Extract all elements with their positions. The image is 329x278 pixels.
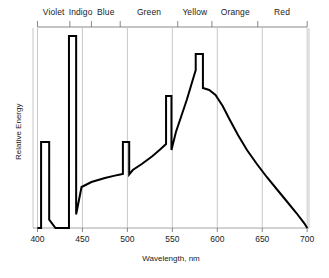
plot-area	[0, 0, 329, 278]
spectral-energy-chart: VioletIndigoBlueGreenYellowOrangeRed 400…	[0, 0, 329, 278]
color-band-rule	[37, 21, 307, 27]
